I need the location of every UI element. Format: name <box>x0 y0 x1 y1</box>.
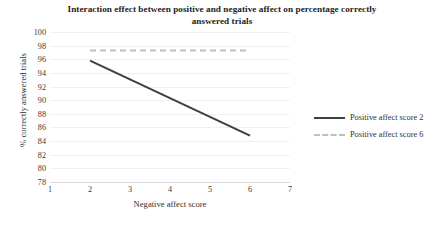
x-axis-tick-label: 3 <box>120 185 140 194</box>
gridline <box>50 168 290 169</box>
x-axis-tick-labels: 1234567 <box>50 185 290 199</box>
x-axis-tick-label: 2 <box>80 185 100 194</box>
gridline <box>50 73 290 74</box>
x-axis-title: Negative affect score <box>50 199 290 209</box>
y-axis-title: % correctly answered trials <box>18 30 28 170</box>
gridline <box>50 155 290 156</box>
chart-title: Interaction effect between positive and … <box>52 4 392 27</box>
plot-area <box>50 32 290 182</box>
legend-label: Positive affect score 2 <box>350 113 423 122</box>
gridline <box>50 127 290 128</box>
legend-label: Positive affect score 6 <box>350 130 423 139</box>
gridline <box>50 141 290 142</box>
x-axis-tick-label: 4 <box>160 185 180 194</box>
x-axis-line <box>50 182 290 183</box>
legend-swatch-icon <box>314 130 345 140</box>
legend-item[interactable]: Positive affect score 6 <box>314 126 423 143</box>
chart-container: Interaction effect between positive and … <box>0 0 445 227</box>
gridline <box>50 100 290 101</box>
x-axis-tick-label: 6 <box>240 185 260 194</box>
x-axis-tick-label: 1 <box>40 185 60 194</box>
x-axis-tick-label: 7 <box>280 185 300 194</box>
gridlines <box>50 32 290 182</box>
gridline <box>50 32 290 33</box>
legend-item[interactable]: Positive affect score 2 <box>314 109 423 126</box>
gridline <box>50 46 290 47</box>
gridline <box>50 114 290 115</box>
x-axis-tick-label: 5 <box>200 185 220 194</box>
chart-legend: Positive affect score 2Positive affect s… <box>314 109 423 143</box>
gridline <box>50 87 290 88</box>
gridline <box>50 59 290 60</box>
legend-swatch-icon <box>314 113 345 123</box>
